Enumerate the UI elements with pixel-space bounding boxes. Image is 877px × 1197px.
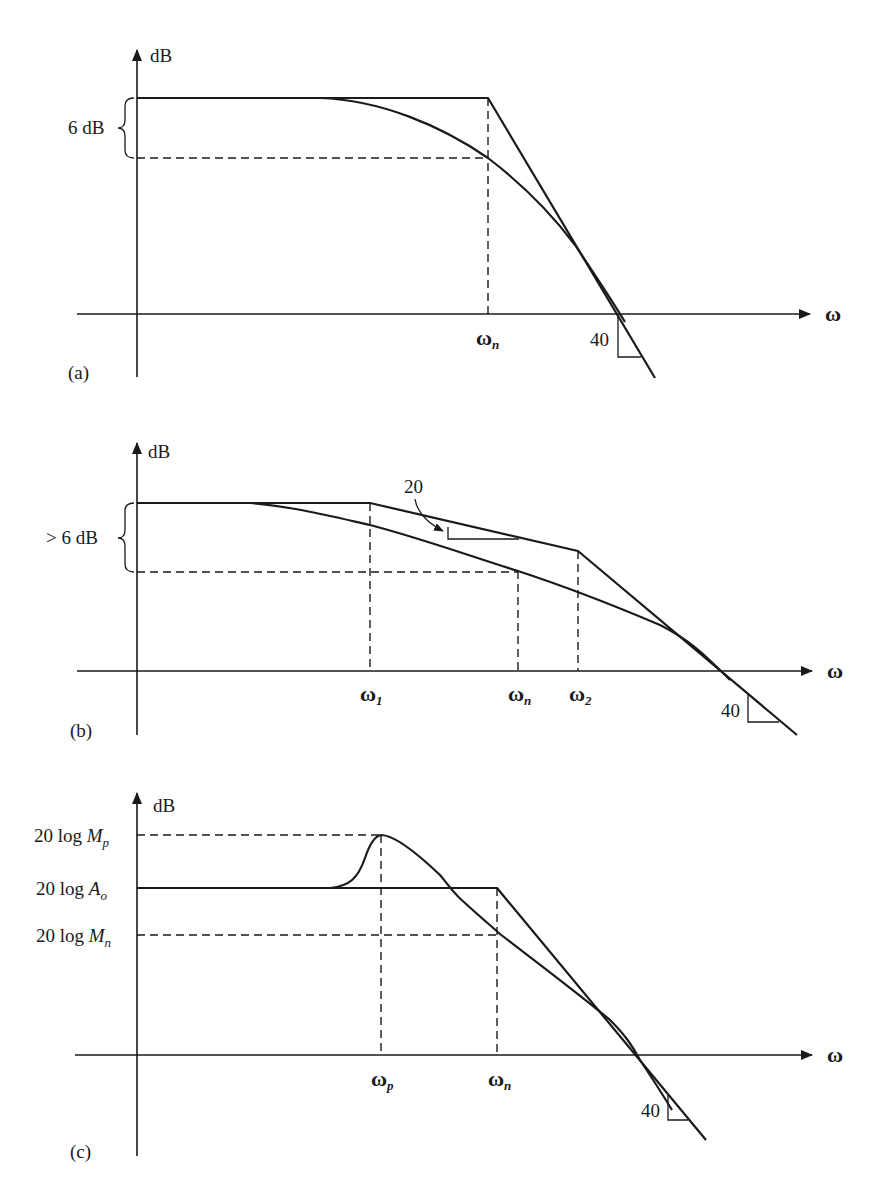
y-axis-label: dB [153,795,175,816]
slope-label: 40 [641,1100,660,1121]
panel-c: dB ω 20 log Mp 20 log Ao 20 log Mn ωp ωn… [34,793,843,1163]
panel-label: (a) [68,362,89,384]
panel-label: (c) [70,1141,91,1163]
asymptote-line [137,503,797,735]
asymptote-line [137,888,706,1140]
wp-label: ωp [371,1066,394,1093]
bracket-label: > 6 dB [46,527,98,548]
actual-response-curve [137,503,730,680]
x-axis-label: ω [827,658,843,683]
x-axis-label: ω [827,1042,843,1067]
bracket-label: 6 dB [68,117,104,138]
mp-label: 20 log Mp [34,825,110,850]
wn-label: ωn [488,1066,511,1093]
panel-label: (b) [70,720,92,742]
asymptote-line [137,98,655,378]
actual-response-curve [137,98,625,322]
panel-a: dB ω 6 dB ωn 40 (a) [68,45,841,384]
slope-20-label: 20 [404,476,423,497]
panel-b: dB ω > 6 dB 20 ω1 ωn ω2 40 (b) [46,441,843,742]
slope-label: 40 [590,329,609,350]
x-axis-label: ω [825,301,841,326]
y-axis-label: dB [148,441,170,462]
bracket-gt-6db [118,503,134,572]
wn-label: ωn [476,325,499,352]
actual-response-curve [137,835,672,1110]
w1-label: ω1 [360,681,383,708]
mn-label: 20 log Mn [36,925,111,950]
wn-label: ωn [508,681,531,708]
bracket-6db [118,98,134,158]
y-axis-label: dB [150,45,172,66]
slope-40-label: 40 [721,700,740,721]
bode-figure: dB ω 6 dB ωn 40 (a) dB ω [0,0,877,1197]
ao-label: 20 log Ao [36,878,107,903]
w2-label: ω2 [569,681,592,708]
